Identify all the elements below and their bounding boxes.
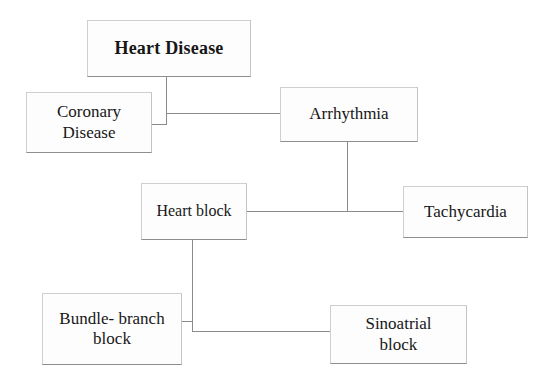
node-coronary-disease: Coronary Disease [26,92,152,153]
node-tachycardia: Tachycardia [403,186,528,238]
node-heart-block: Heart block [141,183,247,240]
node-heart-disease: Heart Disease [87,20,251,77]
node-coronary-disease-label: Coronary Disease [54,102,124,142]
heart-disease-diagram: Heart Disease Coronary Disease Arrhythmi… [0,0,539,391]
connector-heart-disease-to-arrhythmia [166,113,282,114]
node-arrhythmia-label: Arrhythmia [306,104,391,124]
node-arrhythmia: Arrhythmia [280,87,418,142]
node-sinoatrial-block-label: Sinoatrial block [362,314,434,354]
connector-heart-disease-down [166,77,167,125]
node-heart-disease-label: Heart Disease [111,38,226,59]
node-tachycardia-label: Tachycardia [421,202,510,222]
connector-arrhythmia-down [347,142,348,212]
connector-heart-block-down [192,240,193,332]
node-heart-block-label: Heart block [153,202,234,221]
node-sinoatrial-block: Sinoatrial block [330,305,467,364]
node-bundle-branch-block: Bundle- branch block [42,293,182,365]
connector-arrhythmia-to-tachycardia [347,211,404,212]
connector-arrhythmia-to-heart-block [246,211,348,212]
connector-heart-block-to-sinoatrial-block [192,331,333,332]
node-bundle-branch-block-label: Bundle- branch block [56,309,167,349]
